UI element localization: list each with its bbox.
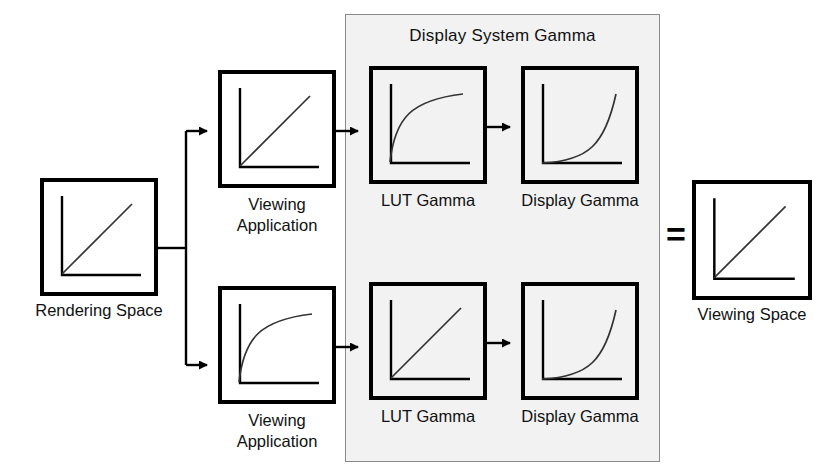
node-lut-gamma-top: [369, 66, 487, 184]
label-rendering-space: Rendering Space: [18, 300, 180, 321]
label-viewing-space: Viewing Space: [678, 304, 826, 325]
node-viewing-application-bottom: [218, 286, 336, 404]
label-viewing-application-bottom: Viewing Application: [198, 410, 356, 452]
response-curve-convex: [542, 310, 616, 379]
plot-axes: [240, 304, 319, 383]
node-viewing-space: [692, 180, 812, 300]
response-curve-linear: [714, 206, 785, 277]
node-display-gamma-top: [521, 66, 639, 184]
response-curve-convex: [542, 94, 616, 163]
plot-axes: [391, 84, 470, 163]
curve-plot-lut-gamma-top: [373, 70, 483, 180]
response-curve-linear: [391, 308, 461, 378]
response-curve-linear: [240, 96, 310, 166]
plot-axes: [543, 300, 622, 379]
diagram-canvas: Display System Gamma = Rendering SpaceVi…: [0, 0, 832, 472]
curve-plot-rendering-space: [44, 182, 154, 292]
label-display-gamma-bottom: Display Gamma: [498, 406, 662, 427]
curve-plot-lut-gamma-bottom: [373, 286, 483, 396]
response-curve-linear: [62, 204, 132, 274]
curve-plot-viewing-space: [696, 184, 808, 296]
node-rendering-space: [40, 178, 158, 296]
label-lut-gamma-bottom: LUT Gamma: [349, 406, 507, 427]
curve-plot-display-gamma-top: [525, 70, 635, 180]
node-lut-gamma-bottom: [369, 282, 487, 400]
label-lut-gamma-top: LUT Gamma: [349, 190, 507, 211]
plot-axes: [543, 84, 622, 163]
node-viewing-application-top: [218, 70, 336, 188]
curve-plot-viewing-application-bottom: [222, 290, 332, 400]
response-curve-concave: [390, 94, 463, 162]
curve-plot-viewing-application-top: [222, 74, 332, 184]
node-display-gamma-bottom: [521, 282, 639, 400]
curve-plot-display-gamma-bottom: [525, 286, 635, 396]
response-curve-concave: [239, 314, 312, 382]
label-display-gamma-top: Display Gamma: [498, 190, 662, 211]
display-system-gamma-title: Display System Gamma: [345, 26, 660, 46]
equals-sign: =: [662, 222, 690, 246]
label-viewing-application-top: Viewing Application: [198, 194, 356, 236]
